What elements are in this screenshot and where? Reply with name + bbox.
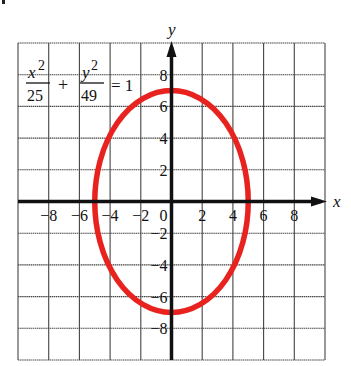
eq-x-den: 25 xyxy=(27,87,43,104)
svg-text:−2: −2 xyxy=(132,207,149,224)
eq-y-num: y xyxy=(80,63,90,82)
svg-text:−6: −6 xyxy=(150,289,167,306)
svg-text:6: 6 xyxy=(160,98,168,115)
ellipse-chart: −8−6−4−2024688642−2−4−6−8 x 2 25 + y 2 4… xyxy=(0,0,351,366)
eq-x-exp: 2 xyxy=(38,58,45,73)
svg-text:8: 8 xyxy=(290,207,298,224)
svg-text:4: 4 xyxy=(160,130,168,147)
eq-y-exp: 2 xyxy=(91,58,98,73)
eq-y-den: 49 xyxy=(81,87,97,104)
x-axis-label: x xyxy=(332,192,341,211)
eq-x-num: x xyxy=(27,63,36,82)
svg-text:8: 8 xyxy=(160,67,168,84)
svg-text:6: 6 xyxy=(260,207,268,224)
svg-text:−4: −4 xyxy=(102,207,119,224)
svg-text:2: 2 xyxy=(198,207,206,224)
svg-text:−2: −2 xyxy=(150,225,167,242)
svg-text:−4: −4 xyxy=(150,257,167,274)
svg-text:−8: −8 xyxy=(150,320,167,337)
y-axis-label: y xyxy=(166,20,176,39)
svg-text:−8: −8 xyxy=(40,207,57,224)
svg-text:−6: −6 xyxy=(71,207,88,224)
eq-plus: + xyxy=(58,75,68,95)
svg-text:2: 2 xyxy=(160,162,168,179)
svg-text:4: 4 xyxy=(229,207,237,224)
svg-text:0: 0 xyxy=(160,207,168,224)
eq-equals: = 1 xyxy=(111,76,133,95)
